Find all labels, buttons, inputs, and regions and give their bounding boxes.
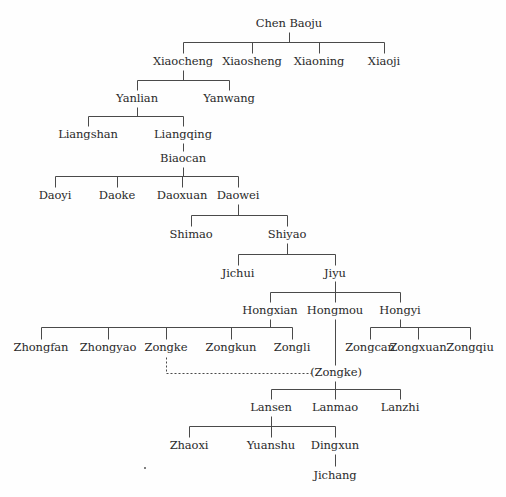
family-tree-diagram: Chen BaojuXiaochengXiaoshengXiaoningXiao… [0, 0, 506, 497]
person-node-zongqiu: Zongqiu [446, 342, 493, 354]
person-node-yuanshu: Yuanshu [247, 440, 295, 452]
person-node-zhaoxi: Zhaoxi [170, 440, 209, 452]
person-node-zongxuan: Zongxuan [389, 342, 446, 354]
person-node-shimao: Shimao [169, 229, 212, 241]
person-node-daoke: Daoke [99, 190, 135, 202]
person-node-zongcan: Zongcan [345, 342, 395, 354]
person-node-daoxuan: Daoxuan [157, 190, 207, 202]
person-node-yanlian: Yanlian [116, 93, 158, 105]
person-node-hongyi: Hongyi [379, 305, 420, 317]
tree-connectors [0, 0, 506, 497]
person-node-daoyi: Daoyi [39, 190, 72, 202]
person-node-hongmou: Hongmou [307, 305, 363, 317]
person-node-jichui: Jichui [222, 268, 255, 280]
person-node-jiyu: Jiyu [324, 268, 346, 280]
person-node-zhongfan: Zhongfan [14, 342, 69, 354]
person-node-shiyao: Shiyao [268, 229, 307, 241]
person-node-xiaosheng: Xiaosheng [222, 56, 282, 68]
person-node-xiaoning: Xiaoning [294, 56, 345, 68]
person-node-zongke: Zongke [145, 342, 188, 354]
stray-mark [144, 467, 146, 469]
person-node-yanwang: Yanwang [203, 93, 255, 105]
person-node-lanmao: Lanmao [312, 402, 358, 414]
person-node-hongxian: Hongxian [242, 305, 297, 317]
person-node-zongke-adopted: (Zongke) [310, 367, 362, 379]
person-node-xiaoji: Xiaoji [368, 56, 400, 68]
person-node-jichang: Jichang [313, 470, 356, 482]
person-node-zongli: Zongli [274, 342, 310, 354]
person-node-liangqing: Liangqing [154, 129, 212, 141]
person-node-chen-baoju: Chen Baoju [256, 18, 322, 30]
person-node-lansen: Lansen [250, 402, 291, 414]
person-node-lanzhi: Lanzhi [381, 402, 419, 414]
person-node-biaocan: Biaocan [160, 153, 206, 165]
person-node-liangshan: Liangshan [58, 129, 118, 141]
person-node-zongkun: Zongkun [206, 342, 257, 354]
person-node-zhongyao: Zhongyao [80, 342, 137, 354]
person-node-xiaocheng: Xiaocheng [153, 56, 213, 68]
person-node-dingxun: Dingxun [311, 440, 359, 452]
person-node-daowei: Daowei [217, 190, 260, 202]
